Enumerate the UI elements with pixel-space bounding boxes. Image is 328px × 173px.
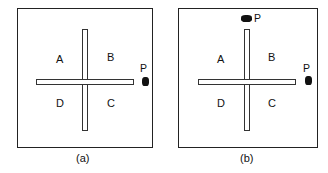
platform-label-east: P [140, 63, 147, 74]
quadrant-label-b: B [107, 52, 114, 63]
quadrant-label-d: D [56, 98, 64, 109]
platform-label-north: P [254, 13, 261, 24]
maze-center [83, 80, 87, 84]
quadrant-label-c: C [268, 98, 276, 109]
platform-marker-east-icon [142, 77, 149, 86]
panel-b-maze-box: A B D C P P [178, 8, 318, 148]
quadrant-label-a: A [217, 54, 224, 65]
platform-marker-north-icon [241, 15, 252, 22]
panel-a-maze-box: A B D C P [17, 8, 153, 148]
panel-b-caption: (b) [240, 153, 253, 164]
quadrant-label-b: B [268, 52, 275, 63]
platform-label-east: P [303, 63, 310, 74]
maze-center [245, 80, 249, 84]
quadrant-label-c: C [107, 98, 115, 109]
quadrant-label-a: A [56, 54, 63, 65]
panel-a-caption: (a) [76, 153, 89, 164]
quadrant-label-d: D [217, 98, 225, 109]
platform-marker-east-icon [305, 76, 312, 85]
